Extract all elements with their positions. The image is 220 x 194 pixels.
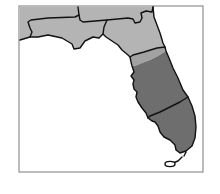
florida-keys-island: [165, 161, 175, 166]
map-canvas: [0, 0, 220, 194]
florida-map: [0, 0, 220, 194]
